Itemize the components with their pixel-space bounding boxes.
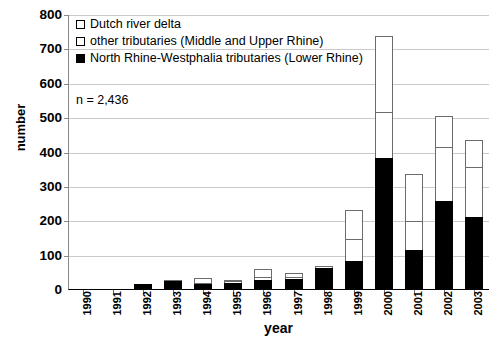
- y-tick-label: 200: [18, 215, 62, 229]
- bar-segment: [435, 201, 453, 290]
- bar-segment: [405, 174, 423, 222]
- bar-segment: [345, 261, 363, 290]
- x-tick-label: 1992: [142, 291, 153, 315]
- x-axis-title: year: [68, 320, 489, 336]
- bar-segment: [164, 281, 182, 290]
- legend-item-label: other tributaries (Middle and Upper Rhin…: [90, 35, 323, 48]
- x-tick-label: 1999: [352, 291, 363, 315]
- bar-segment: [345, 210, 363, 241]
- x-tick-label: 1997: [292, 291, 303, 315]
- bar-stack-1996: [254, 269, 272, 290]
- x-tick-label: 1993: [172, 291, 183, 315]
- x-tick-label: 1995: [232, 291, 243, 315]
- bar-stack-1998: [315, 266, 333, 290]
- bar-segment: [375, 112, 393, 159]
- legend-item-label: Dutch river delta: [90, 18, 181, 31]
- legend-swatch-icon: [76, 54, 85, 63]
- bar-segment: [435, 116, 453, 148]
- bar-segment: [405, 221, 423, 251]
- x-tick-label: 1996: [262, 291, 273, 315]
- bar-group: [399, 15, 429, 290]
- legend-item-label: North Rhine-Westphalia tributaries (Lowe…: [90, 52, 363, 65]
- bar-segment: [435, 147, 453, 202]
- bar-segment: [375, 158, 393, 290]
- bar-group: [429, 15, 459, 290]
- bar-segment: [224, 283, 242, 290]
- bar-segment: [254, 280, 272, 290]
- y-tick-label: 600: [18, 77, 62, 91]
- x-tick-label: 1990: [82, 291, 93, 315]
- bar-segment: [405, 250, 423, 290]
- x-tick-label: 1994: [202, 291, 213, 315]
- bar-segment: [285, 279, 303, 290]
- legend-item-other-tributaries: other tributaries (Middle and Upper Rhin…: [76, 33, 376, 49]
- x-tick-label: 1998: [322, 291, 333, 315]
- bar-group: [459, 15, 489, 290]
- bar-stack-2002: [435, 116, 453, 290]
- y-tick-label: 100: [18, 249, 62, 263]
- stacked-bar-chart: number 0100200300400500600700800 1990199…: [0, 0, 498, 342]
- y-tick-label: 400: [18, 146, 62, 160]
- bar-segment: [465, 167, 483, 219]
- x-tick-label: 2001: [412, 291, 423, 315]
- bar-segment: [465, 217, 483, 290]
- bar-segment: [375, 36, 393, 113]
- sample-size-annotation: n = 2,436: [76, 93, 128, 107]
- legend-item-dutch-river-delta: Dutch river delta: [76, 16, 376, 32]
- bar-segment: [345, 239, 363, 261]
- bar-segment: [465, 140, 483, 168]
- bar-stack-2003: [465, 140, 483, 290]
- y-tick-label: 500: [18, 111, 62, 125]
- bar-stack-1993: [164, 280, 182, 290]
- legend-swatch-icon: [76, 37, 85, 46]
- legend-swatch-icon: [76, 20, 85, 29]
- bar-segment: [315, 268, 333, 290]
- y-tick-label: 0: [18, 283, 62, 297]
- x-tick-label: 1991: [112, 291, 123, 315]
- y-tick-label: 700: [18, 43, 62, 57]
- legend-item-north-rhine-westphalia: North Rhine-Westphalia tributaries (Lowe…: [76, 50, 376, 66]
- y-tick-label: 800: [18, 8, 62, 22]
- x-tick-label: 2003: [472, 291, 483, 315]
- bar-stack-1997: [285, 273, 303, 290]
- x-tick-label: 2000: [382, 291, 393, 315]
- bar-stack-2000: [375, 36, 393, 290]
- bar-stack-1995: [224, 280, 242, 290]
- y-tick-label: 300: [18, 180, 62, 194]
- bar-stack-1999: [345, 210, 363, 291]
- chart-legend: Dutch river delta other tributaries (Mid…: [76, 16, 376, 67]
- bar-stack-2001: [405, 174, 423, 290]
- x-tick-label: 2002: [442, 291, 453, 315]
- bar-stack-1994: [194, 278, 212, 290]
